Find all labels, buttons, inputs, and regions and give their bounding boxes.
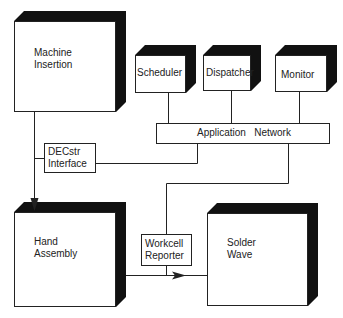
machine-insertion-line1: Machine [34, 47, 72, 58]
machine-insertion-label: MachineInsertion [34, 47, 72, 71]
edge-decstr-to-network [96, 144, 198, 164]
workcell-line1: Workcell [145, 238, 183, 249]
solder-wave-box [208, 214, 308, 306]
workcell-line2: Reporter [145, 250, 184, 261]
decstr-line1: DECstr [48, 146, 80, 157]
solder-line1: Solder [227, 237, 256, 248]
solder-line2: Wave [227, 249, 252, 260]
solder-wave-label: SolderWave [227, 237, 256, 261]
hand-line2: Assembly [34, 248, 77, 259]
hand-line1: Hand [34, 236, 58, 247]
machine-insertion-line2: Insertion [34, 59, 72, 70]
application-network-label: Application Network [197, 127, 291, 139]
scheduler-label: Scheduler [137, 67, 182, 79]
hand-assembly-label: HandAssembly [34, 236, 77, 260]
monitor-label: Monitor [281, 69, 314, 81]
decstr-line2: Interface [48, 158, 87, 169]
dispatcher-label: Dispatcher [206, 67, 254, 79]
workcell-reporter-label: WorkcellReporter [145, 238, 184, 262]
decstr-interface-label: DECstrInterface [48, 146, 87, 170]
